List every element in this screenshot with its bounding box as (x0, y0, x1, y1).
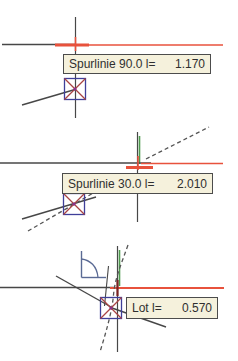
marker-center-dot (72, 202, 75, 205)
construction-dashed-curve (100, 245, 128, 352)
point-marker (64, 194, 85, 215)
tooltip-label: Spurlinie 90.0 l= (69, 58, 155, 70)
perpendicular-snap-icon (82, 251, 107, 278)
tooltip-label: Lot l= (132, 302, 162, 314)
marker-center-dot (73, 87, 76, 90)
point-marker (101, 298, 122, 319)
steep-construction-line (105, 266, 109, 306)
measurement-tooltip-spurlinie-90: Spurlinie 90.0 l= 1.170 (63, 54, 211, 74)
construction-dashed-line (146, 127, 209, 159)
leader-line (56, 276, 111, 307)
cad-drawing-area[interactable]: Spurlinie 90.0 l= 1.170 Spurlinie 30.0 l… (0, 0, 238, 361)
measurement-tooltip-spurlinie-30: Spurlinie 30.0 l= 2.010 (62, 173, 213, 194)
tooltip-value: 2.010 (177, 178, 207, 190)
measurement-tooltip-lot: Lot l= 0.570 (126, 297, 218, 319)
tooltip-value: 0.570 (182, 302, 212, 314)
tooltip-value: 1.170 (175, 58, 205, 70)
tooltip-label: Spurlinie 30.0 l= (68, 178, 154, 190)
marker-center-dot (109, 306, 112, 309)
